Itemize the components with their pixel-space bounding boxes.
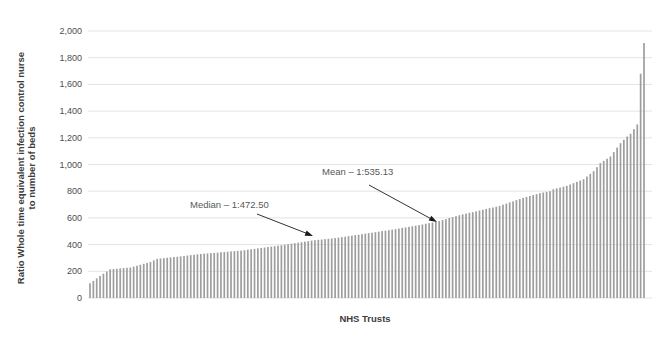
- bar: [160, 258, 162, 298]
- bar: [422, 224, 424, 298]
- y-tick-label: 1,000: [59, 160, 82, 170]
- bar: [579, 181, 581, 298]
- bar: [247, 250, 249, 298]
- bar: [385, 231, 387, 298]
- bar: [586, 177, 588, 298]
- bar: [264, 248, 266, 298]
- bar: [96, 278, 98, 298]
- bar: [344, 237, 346, 298]
- bar: [636, 124, 638, 298]
- bar: [311, 241, 313, 298]
- bar: [563, 187, 565, 298]
- bar: [341, 237, 343, 298]
- bar: [549, 191, 551, 298]
- bar: [180, 256, 182, 298]
- bar: [566, 186, 568, 298]
- bar: [277, 246, 279, 298]
- bar: [93, 281, 95, 298]
- bar: [250, 249, 252, 298]
- bar: [203, 254, 205, 298]
- bar: [113, 269, 115, 298]
- y-tick-label: 1,800: [59, 53, 82, 63]
- bar: [274, 246, 276, 298]
- bar: [610, 156, 612, 298]
- bar: [321, 240, 323, 298]
- bar: [438, 221, 440, 298]
- bar: [630, 134, 632, 298]
- bar: [146, 263, 148, 298]
- bar: [287, 244, 289, 298]
- y-axis-title: Ratio Whole time equivalent infection co…: [15, 52, 37, 284]
- bar: [348, 236, 350, 298]
- bar: [395, 229, 397, 298]
- bar: [620, 143, 622, 298]
- bar: [415, 226, 417, 298]
- bar: [116, 269, 118, 298]
- bar: [616, 148, 618, 298]
- bar: [556, 188, 558, 298]
- bar: [254, 249, 256, 298]
- bar: [408, 227, 410, 298]
- bar: [297, 243, 299, 298]
- bar: [502, 205, 504, 298]
- bar: [505, 204, 507, 298]
- bar: [593, 171, 595, 298]
- bar: [136, 266, 138, 298]
- bar: [445, 219, 447, 298]
- bar: [304, 242, 306, 298]
- bar: [381, 231, 383, 298]
- bar: [559, 188, 561, 298]
- bar: [270, 247, 272, 298]
- bar: [536, 194, 538, 298]
- bar: [197, 254, 199, 298]
- y-tick-label: 1,600: [59, 79, 82, 89]
- bar: [375, 232, 377, 298]
- bar: [150, 262, 152, 298]
- y-tick-label: 200: [67, 266, 82, 276]
- bar: [519, 199, 521, 298]
- y-tick-label: 400: [67, 240, 82, 250]
- y-tick-label: 800: [67, 186, 82, 196]
- bar: [606, 159, 608, 298]
- y-tick-label: 600: [67, 213, 82, 223]
- bar: [153, 260, 155, 298]
- bar: [589, 174, 591, 298]
- bar: [418, 225, 420, 298]
- bar: [479, 211, 481, 298]
- bar: [458, 215, 460, 298]
- bar: [314, 240, 316, 298]
- bar: [200, 254, 202, 298]
- bar: [512, 201, 514, 298]
- bar: [573, 183, 575, 298]
- bar: [455, 216, 457, 298]
- bar: [257, 248, 259, 298]
- bar: [106, 272, 108, 298]
- bar: [475, 211, 477, 298]
- bar: [237, 251, 239, 298]
- bar: [462, 214, 464, 298]
- bar: [623, 140, 625, 298]
- bar: [485, 209, 487, 298]
- bar: [596, 167, 598, 298]
- bar: [569, 185, 571, 298]
- bar: [260, 248, 262, 298]
- y-tick-label: 2,000: [59, 26, 82, 36]
- bar: [210, 253, 212, 298]
- bar: [234, 251, 236, 298]
- bar: [173, 257, 175, 298]
- bar: [432, 223, 434, 298]
- bar: [187, 256, 189, 298]
- bar: [328, 239, 330, 298]
- bar: [442, 220, 444, 298]
- bar: [166, 258, 168, 298]
- bar: [546, 192, 548, 298]
- bar: [240, 251, 242, 298]
- chart: 02004006008001,0001,2001,4001,6001,8002,…: [0, 0, 670, 338]
- bar: [176, 257, 178, 298]
- y-tick-label: 1,400: [59, 106, 82, 116]
- bar: [626, 136, 628, 298]
- bar: [140, 265, 142, 298]
- bar: [129, 268, 131, 298]
- bar: [317, 240, 319, 298]
- y-tick-label: 1,200: [59, 133, 82, 143]
